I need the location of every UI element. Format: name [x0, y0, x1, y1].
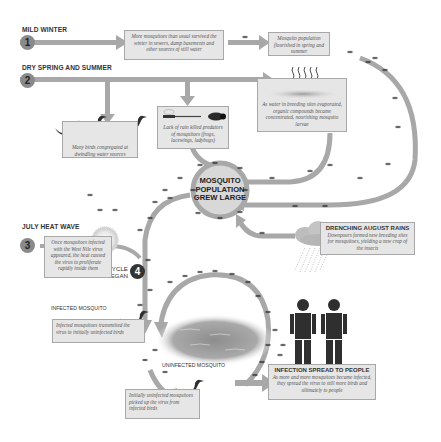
people-title: INFECTION SPREAD TO PEOPLE [272, 367, 372, 374]
box-flourished: Mosquito population flourished in spring… [268, 32, 330, 56]
arrow-step2 [20, 72, 274, 124]
puddle-icon [263, 89, 343, 99]
infected-mosquito-label: INFECTED MOSQUITO [51, 305, 107, 311]
uninfected-mosquito-label: UNINFECTED MOSQUITO [162, 362, 225, 368]
step3-badge: 3 [20, 238, 35, 253]
step1-heading: MILD WINTER [22, 26, 67, 33]
center-label-line3: GREW LARGE [190, 194, 250, 203]
arrow-august-rains [240, 222, 295, 236]
center-label: MOSQUITO POPULATION GREW LARGE [190, 177, 250, 203]
august-rains-text: Downpours formed new breeding sites for … [324, 232, 411, 252]
box-survived-winter: More mosquitoes than usual survived the … [124, 30, 224, 60]
person-icon-2 [321, 299, 347, 368]
person-icon [290, 299, 316, 368]
step2-heading: DRY SPRING AND SUMMER [22, 64, 112, 71]
box-infected-transmit: Infected mosquitoes transmitted the viru… [52, 319, 145, 343]
box-august-rains: DRENCHING AUGUST RAINS Downpours formed … [320, 222, 415, 255]
box-predators-killed: Lack of rain killed predators of mosquit… [157, 106, 229, 149]
box-organic-compounds: As water in breeding sites evaporated, o… [257, 78, 347, 132]
step3-heading: JULY HEAT WAVE [22, 223, 80, 230]
dragonfly-ladybug-icons [161, 109, 227, 123]
pond-icon [155, 314, 275, 366]
box-birds-congregated: Many birds congregated at dwindling wate… [62, 121, 138, 158]
organic-compounds-text: As water in breeding sites evaporated, o… [262, 101, 342, 127]
box-people: INFECTION SPREAD TO PEOPLE As more and m… [268, 364, 376, 400]
people-text: As more and more mosquitoes became infec… [272, 374, 372, 394]
box-uninfected-pickup: Initially uninfected mosquitoes picked u… [125, 389, 200, 419]
step4-badge: 4 [130, 264, 145, 279]
step1-badge: 1 [20, 35, 35, 50]
august-rains-title: DRENCHING AUGUST RAINS [324, 225, 411, 232]
predators-killed-text: Lack of rain killed predators of mosquit… [163, 124, 222, 143]
step2-badge: 2 [20, 73, 35, 88]
loop-organic [240, 133, 330, 182]
box-heat-wave: Once mosquitoes infected with the West N… [44, 236, 112, 278]
